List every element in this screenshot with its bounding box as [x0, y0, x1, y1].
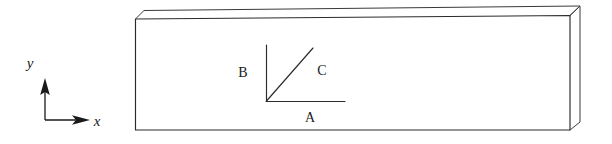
x-axis-label: x — [93, 113, 101, 129]
y-axis-label: y — [25, 55, 34, 71]
vector-a-label: A — [305, 110, 316, 125]
global-axes-group — [40, 78, 90, 125]
vector-c-label: C — [317, 63, 326, 78]
vector-b-label: B — [238, 65, 247, 80]
figure-canvas: y x B C A — [0, 0, 612, 144]
slab-diagram: y x B C A — [0, 0, 612, 144]
slab-right-face-fill — [570, 6, 580, 130]
slab-group — [135, 6, 580, 130]
slab-front-face-fill — [135, 15, 570, 130]
